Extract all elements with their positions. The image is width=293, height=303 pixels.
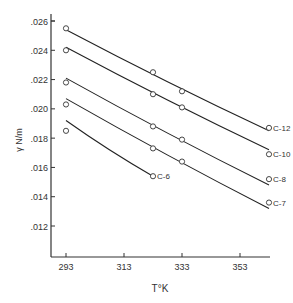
data-point: [266, 177, 271, 182]
series-label-c-7: C-7: [273, 199, 286, 208]
data-point: [150, 124, 155, 129]
series-labels: C-12C-10C-8C-7C-6: [157, 124, 291, 208]
surface-tension-chart: .012.014.016.018.020.022.024.02629331333…: [0, 0, 293, 303]
y-tick-label: .016: [30, 163, 48, 173]
y-tick-label: .018: [30, 134, 48, 144]
y-tick-label: .014: [30, 192, 48, 202]
data-point: [179, 159, 184, 164]
data-point: [150, 174, 155, 179]
curve-c-6: [66, 121, 153, 177]
y-tick-label: .026: [30, 17, 48, 27]
series-label-c-6: C-6: [157, 172, 170, 181]
data-point: [266, 125, 271, 130]
data-point: [179, 89, 184, 94]
y-tick-label: .022: [30, 75, 48, 85]
data-point: [179, 105, 184, 110]
series-label-c-12: C-12: [273, 124, 291, 133]
data-point: [63, 102, 68, 107]
curve-c-7: [66, 99, 269, 209]
x-tick-label: 333: [174, 262, 189, 272]
data-point: [150, 70, 155, 75]
data-point: [63, 128, 68, 133]
curves: [66, 30, 269, 209]
x-tick-label: 313: [116, 262, 131, 272]
series-label-c-10: C-10: [273, 150, 291, 159]
data-point: [63, 48, 68, 53]
x-axis-label: T°K: [152, 283, 169, 294]
data-point: [179, 137, 184, 142]
data-point: [150, 146, 155, 151]
series-label-c-8: C-8: [273, 175, 286, 184]
y-axis-label: γ N/m: [14, 128, 24, 152]
y-tick-label: .020: [30, 104, 48, 114]
y-tick-label: .012: [30, 222, 48, 232]
data-point: [266, 200, 271, 205]
data-point: [150, 92, 155, 97]
curve-c-10: [66, 47, 269, 150]
data-point: [266, 152, 271, 157]
curve-c-8: [66, 78, 269, 185]
data-point: [63, 26, 68, 31]
y-tick-label: .024: [30, 46, 48, 56]
data-point: [63, 80, 68, 85]
x-tick-label: 293: [58, 262, 73, 272]
x-tick-label: 353: [232, 262, 247, 272]
